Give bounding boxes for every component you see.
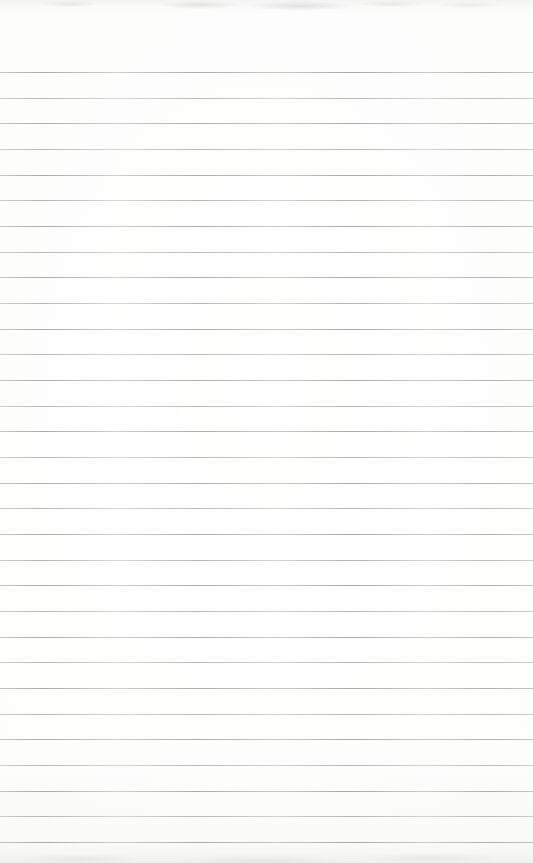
rule-line bbox=[0, 72, 533, 73]
rule-line bbox=[0, 380, 533, 381]
rule-line bbox=[0, 175, 533, 176]
rule-line bbox=[0, 560, 533, 561]
rule-line bbox=[0, 200, 533, 201]
rule-line bbox=[0, 611, 533, 612]
rule-line bbox=[0, 483, 533, 484]
rule-line bbox=[0, 662, 533, 663]
rule-line bbox=[0, 457, 533, 458]
notebook-page bbox=[0, 0, 533, 863]
rule-line bbox=[0, 765, 533, 766]
rule-line bbox=[0, 534, 533, 535]
rule-line bbox=[0, 252, 533, 253]
rule-line bbox=[0, 688, 533, 689]
paper-bottom-edge-shade bbox=[0, 843, 533, 863]
rule-line bbox=[0, 226, 533, 227]
rule-line bbox=[0, 123, 533, 124]
rule-line bbox=[0, 431, 533, 432]
rule-line bbox=[0, 98, 533, 99]
rule-line bbox=[0, 637, 533, 638]
rule-line bbox=[0, 739, 533, 740]
ruled-lines bbox=[0, 0, 533, 863]
rule-line bbox=[0, 329, 533, 330]
rule-line bbox=[0, 303, 533, 304]
rule-line bbox=[0, 714, 533, 715]
rule-line bbox=[0, 406, 533, 407]
rule-line bbox=[0, 149, 533, 150]
rule-line bbox=[0, 791, 533, 792]
rule-line bbox=[0, 508, 533, 509]
rule-line bbox=[0, 354, 533, 355]
rule-line bbox=[0, 816, 533, 817]
rule-line bbox=[0, 277, 533, 278]
rule-line bbox=[0, 585, 533, 586]
